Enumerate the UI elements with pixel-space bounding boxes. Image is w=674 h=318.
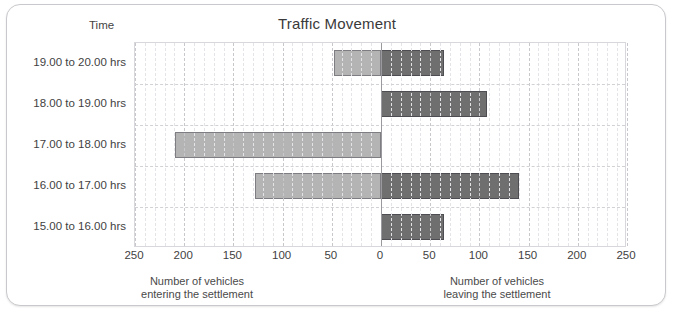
bar-leaving[interactable] [381, 91, 487, 117]
gridline-major-vertical [135, 43, 136, 246]
gridline-minor-vertical [165, 43, 166, 246]
gridline-minor-vertical [558, 43, 559, 246]
gridline-minor-vertical [538, 43, 539, 246]
gridline-major-vertical [184, 43, 185, 246]
value-axis-tick-label: 150 [518, 249, 537, 261]
value-axis-tick-label: 100 [469, 249, 488, 261]
value-axis-tick-label: 250 [124, 249, 143, 261]
value-axis-tick-label: 50 [324, 249, 337, 261]
chart-row [135, 125, 625, 166]
gridline-minor-vertical [470, 43, 471, 246]
axis-caption-left: Number of vehicles entering the settleme… [67, 275, 327, 301]
gridline-minor-vertical [155, 43, 156, 246]
chart-row [135, 43, 625, 84]
value-axis-tick-label: 50 [423, 249, 436, 261]
bar-entering[interactable] [175, 132, 381, 158]
gridline-minor-vertical [253, 43, 254, 246]
gridline-minor-vertical [214, 43, 215, 246]
value-axis-tick-label: 100 [272, 249, 291, 261]
gridline-minor-vertical [548, 43, 549, 246]
gridline-minor-vertical [292, 43, 293, 246]
gridline-minor-vertical [342, 43, 343, 246]
value-axis-tick-label: 0 [377, 249, 383, 261]
category-label: 16.00 to 17.00 hrs [33, 165, 126, 206]
plot-area [134, 42, 626, 247]
category-axis-labels: 19.00 to 20.00 hrs18.00 to 19.00 hrs17.0… [7, 42, 132, 247]
gridline-horizontal [135, 125, 625, 126]
bar-rows [135, 43, 625, 246]
gridline-minor-vertical [145, 43, 146, 246]
category-label: 18.00 to 19.00 hrs [33, 83, 126, 124]
gridline-minor-vertical [401, 43, 402, 246]
gridline-minor-vertical [519, 43, 520, 246]
gridline-minor-vertical [588, 43, 589, 246]
axis-caption-left-line1: Number of vehicles [67, 275, 327, 288]
chart-card: Traffic Movement Time 19.00 to 20.00 hrs… [6, 4, 666, 306]
gridline-major-vertical [529, 43, 530, 246]
gridline-minor-vertical [617, 43, 618, 246]
category-label: 15.00 to 16.00 hrs [33, 206, 126, 247]
value-axis-tick-label: 200 [174, 249, 193, 261]
gridline-minor-vertical [440, 43, 441, 246]
gridline-major-vertical [479, 43, 480, 246]
gridline-minor-vertical [489, 43, 490, 246]
gridline-minor-vertical [302, 43, 303, 246]
value-axis-tick-label: 150 [223, 249, 242, 261]
gridline-minor-vertical [371, 43, 372, 246]
gridline-minor-vertical [243, 43, 244, 246]
chart-row [135, 84, 625, 125]
gridline-minor-vertical [351, 43, 352, 246]
time-axis-title: Time [89, 19, 114, 31]
zero-axis-line [381, 43, 382, 246]
gridline-minor-vertical [460, 43, 461, 246]
gridline-horizontal [135, 84, 625, 85]
gridline-minor-vertical [312, 43, 313, 246]
gridline-minor-vertical [391, 43, 392, 246]
gridline-minor-vertical [263, 43, 264, 246]
gridline-major-vertical [578, 43, 579, 246]
value-axis-ticks: 25020015010050050100150200250 [134, 249, 626, 265]
gridline-minor-vertical [450, 43, 451, 246]
axis-caption-right-line2: leaving the settlement [367, 288, 627, 301]
gridline-minor-vertical [411, 43, 412, 246]
axis-caption-right-line1: Number of vehicles [367, 275, 627, 288]
value-axis-tick-label: 200 [567, 249, 586, 261]
category-label: 17.00 to 18.00 hrs [33, 124, 126, 165]
gridline-minor-vertical [273, 43, 274, 246]
gridline-major-vertical [332, 43, 333, 246]
gridline-minor-vertical [174, 43, 175, 246]
gridline-minor-vertical [420, 43, 421, 246]
axis-caption-left-line2: entering the settlement [67, 288, 327, 301]
chart-row [135, 166, 625, 207]
category-label: 19.00 to 20.00 hrs [33, 42, 126, 83]
gridline-minor-vertical [194, 43, 195, 246]
gridline-major-vertical [283, 43, 284, 246]
gridline-horizontal [135, 166, 625, 167]
gridline-minor-vertical [361, 43, 362, 246]
gridline-major-vertical [430, 43, 431, 246]
gridline-major-vertical [233, 43, 234, 246]
gridline-major-vertical [627, 43, 628, 246]
gridline-minor-vertical [509, 43, 510, 246]
gridline-minor-vertical [499, 43, 500, 246]
gridline-minor-vertical [568, 43, 569, 246]
axis-caption-right: Number of vehicles leaving the settlemen… [367, 275, 627, 301]
chart-row [135, 207, 625, 248]
gridline-minor-vertical [224, 43, 225, 246]
gridline-minor-vertical [607, 43, 608, 246]
gridline-minor-vertical [597, 43, 598, 246]
gridline-horizontal [135, 207, 625, 208]
value-axis-tick-label: 250 [616, 249, 635, 261]
gridline-minor-vertical [322, 43, 323, 246]
gridline-minor-vertical [204, 43, 205, 246]
